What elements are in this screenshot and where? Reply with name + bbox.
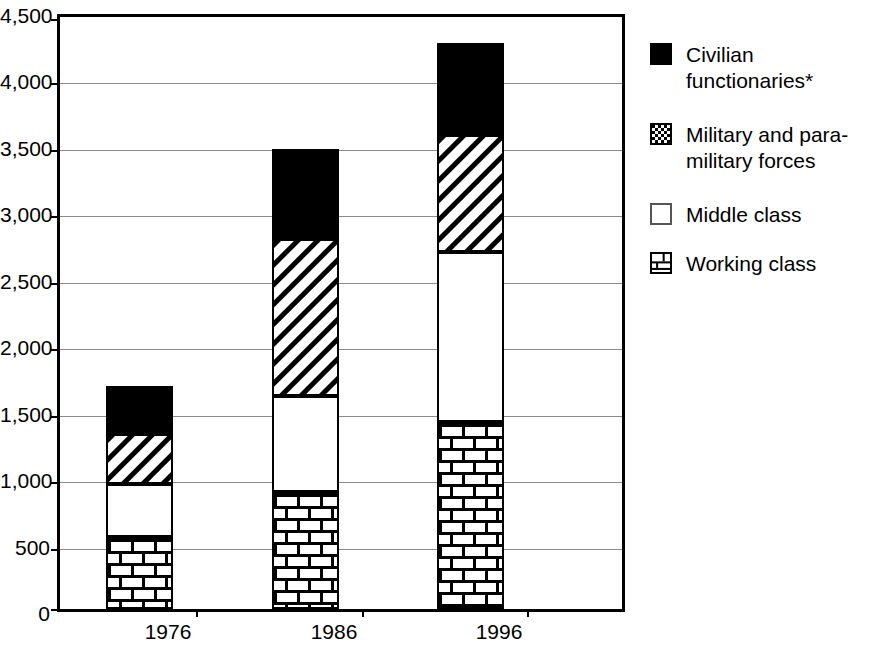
legend-item-working-class[interactable]: Working class bbox=[650, 251, 816, 277]
stacked-bar-chart: 4,500 4,000 3,500 3,000 2,500 2,000 1,50… bbox=[0, 0, 881, 649]
y-tick-label: 3,000 bbox=[0, 204, 50, 225]
y-axis-labels: 4,500 4,000 3,500 3,000 2,500 2,000 1,50… bbox=[0, 0, 50, 649]
bar-segment-military[interactable] bbox=[106, 434, 173, 484]
brick-pattern-fill bbox=[274, 494, 337, 607]
gridline-3000 bbox=[60, 216, 622, 217]
y-tickmark-1000 bbox=[51, 482, 60, 484]
checker-pattern-fill bbox=[652, 125, 670, 143]
hatch-pattern-fill bbox=[108, 436, 171, 482]
hatch-pattern-fill bbox=[439, 137, 502, 250]
y-tick-label: 1,500 bbox=[0, 404, 50, 425]
brick-swatch-pattern-fill bbox=[652, 254, 670, 272]
x-tick-label-1976: 1976 bbox=[118, 620, 218, 644]
x-axis-labels: 1976 1986 1996 bbox=[0, 620, 881, 649]
legend-item-military[interactable]: Military and para- military forces bbox=[650, 122, 848, 174]
legend-item-middle-class[interactable]: Middle class bbox=[650, 202, 802, 228]
empty-white-swatch-icon bbox=[650, 203, 672, 225]
y-tickmark-3500 bbox=[51, 150, 60, 152]
y-tickmark-4500 bbox=[51, 19, 60, 21]
bar-segment-working-class[interactable] bbox=[437, 422, 504, 609]
legend-label: Military and para- military forces bbox=[686, 122, 848, 174]
bar-segment-middle-class[interactable] bbox=[437, 252, 504, 422]
hatch-pattern-fill bbox=[274, 241, 337, 394]
y-tickmark-500 bbox=[51, 549, 60, 551]
y-tick-label: 500 bbox=[0, 537, 50, 558]
y-tick-label: 2,000 bbox=[0, 337, 50, 358]
gridline-4000 bbox=[60, 83, 622, 84]
gridline-2500 bbox=[60, 283, 622, 284]
legend-label: Working class bbox=[686, 251, 816, 277]
x-tickmark-1996 bbox=[527, 609, 529, 617]
bar-segment-military[interactable] bbox=[272, 239, 339, 396]
brick-pattern-fill bbox=[108, 539, 171, 607]
x-tickmark-1976 bbox=[196, 609, 198, 617]
bar-segment-middle-class[interactable] bbox=[272, 396, 339, 492]
gridline-2000 bbox=[60, 349, 622, 350]
bar-1976[interactable] bbox=[106, 387, 173, 609]
y-tickmark-3000 bbox=[51, 216, 60, 218]
y-tickmark-4000 bbox=[51, 83, 60, 85]
gridline-3500 bbox=[60, 150, 622, 151]
bar-segment-civilian[interactable] bbox=[272, 149, 339, 239]
bar-segment-civilian[interactable] bbox=[106, 386, 173, 434]
checkered-swatch-icon bbox=[650, 123, 672, 145]
bar-segment-military[interactable] bbox=[437, 135, 504, 252]
y-tickmark-2500 bbox=[51, 283, 60, 285]
y-tickmark-2000 bbox=[51, 349, 60, 351]
bar-segment-working-class[interactable] bbox=[106, 537, 173, 609]
y-tickmark-0 bbox=[51, 609, 60, 611]
brick-swatch-icon bbox=[650, 252, 672, 274]
bar-1986[interactable] bbox=[272, 149, 339, 609]
bar-segment-working-class[interactable] bbox=[272, 492, 339, 609]
solid-black-swatch-icon bbox=[650, 43, 672, 65]
legend-item-civilian-functionaries[interactable]: Civilian functionaries* bbox=[650, 42, 813, 94]
bar-1996[interactable] bbox=[437, 43, 504, 609]
legend-label: Civilian functionaries* bbox=[686, 42, 813, 94]
bar-segment-middle-class[interactable] bbox=[106, 484, 173, 537]
plot-area bbox=[57, 14, 625, 612]
x-tickmark-1986 bbox=[362, 609, 364, 617]
x-tick-label-1996: 1996 bbox=[449, 620, 549, 644]
y-tick-label: 3,500 bbox=[0, 138, 50, 159]
x-tick-label-1986: 1986 bbox=[284, 620, 384, 644]
y-tick-label: 1,000 bbox=[0, 470, 50, 491]
legend-label: Middle class bbox=[686, 202, 802, 228]
y-tickmark-1500 bbox=[51, 416, 60, 418]
y-tick-label: 4,000 bbox=[0, 71, 50, 92]
bar-segment-civilian[interactable] bbox=[437, 43, 504, 135]
y-tick-label: 4,500 bbox=[0, 5, 50, 26]
brick-pattern-fill bbox=[439, 424, 502, 607]
y-tick-label: 2,500 bbox=[0, 271, 50, 292]
